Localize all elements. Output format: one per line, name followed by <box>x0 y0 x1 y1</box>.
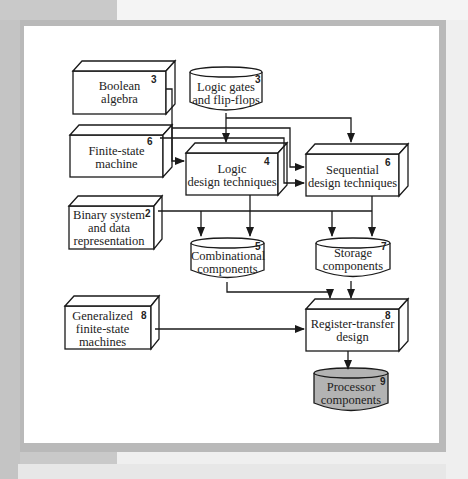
label-line: components <box>314 394 388 407</box>
label-line: components <box>191 263 264 276</box>
edge-binary-to-comb-and-storage <box>158 211 372 236</box>
node-rtl-label: Register-transfer design <box>306 318 399 344</box>
label-line: machine <box>70 158 163 171</box>
chapter-badge-rtl: 8 <box>385 310 391 321</box>
label-line: machines <box>65 336 140 349</box>
edge-comb-to-rtl <box>227 282 330 298</box>
chapter-badge-comb: 5 <box>255 241 261 252</box>
label-line: and flip-flops <box>190 94 262 107</box>
node-gfsm-label: Generalized finite-state machines <box>65 310 140 349</box>
node-comb-label: Combinational components <box>191 250 264 276</box>
label-line: design <box>306 331 399 344</box>
chapter-badge-seq: 6 <box>385 157 391 168</box>
node-binary-label: Binary system and data representation <box>69 209 149 248</box>
node-fsm-label: Finite-state machine <box>70 145 163 171</box>
chapter-badge-storage: 7 <box>381 241 387 252</box>
chapter-badge-binary: 2 <box>145 208 151 219</box>
label-line: algebra <box>73 93 166 106</box>
label-line: design techniques <box>306 177 399 190</box>
chapter-badge-fsm: 6 <box>147 136 153 147</box>
label-line: representation <box>69 235 149 248</box>
chapter-badge-logic: 4 <box>264 156 270 167</box>
label-line: components <box>316 260 390 273</box>
node-proc-label: Processor components <box>314 381 388 407</box>
node-gates-label: Logic gates and flip-flops <box>190 81 262 107</box>
node-storage-label: Storage components <box>316 247 390 273</box>
label-line: design techniques <box>186 176 278 189</box>
chapter-badge-boolean: 3 <box>151 74 157 85</box>
chapter-badge-gfsm: 8 <box>141 310 147 321</box>
chapter-badge-proc: 9 <box>380 376 386 387</box>
chapter-badge-gates: 3 <box>255 74 261 85</box>
